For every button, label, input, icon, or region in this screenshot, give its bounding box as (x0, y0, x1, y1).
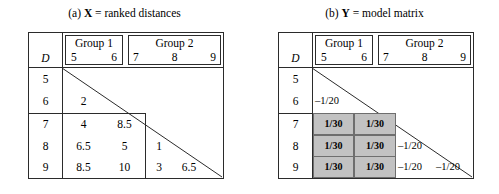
header-separator (62, 33, 63, 67)
group-box-2-a: Group 2 7 8 9 (128, 35, 221, 65)
matrix-cell: 6.5 (174, 156, 204, 178)
group-item: 7 (129, 50, 161, 65)
group-item: 7 (379, 50, 411, 65)
matrix-header-b: D Group 1 5 6 Group 2 7 8 9 (279, 33, 473, 68)
group-box-1-b: Group 1 5 6 (315, 35, 373, 65)
matrix-body-b: 5 6 7 8 9 –1/20 1/30 1/30 1/30 1/30 –1/2… (279, 68, 473, 178)
group-title: Group 1 (66, 36, 122, 51)
row-label: 9 (29, 156, 62, 178)
matrix-cell: 1 (146, 135, 172, 157)
group-item: 6 (94, 50, 122, 65)
group-items: 5 6 (316, 50, 372, 65)
group-box-1-a: Group 1 5 6 (65, 35, 123, 65)
group-item: 5 (66, 50, 94, 65)
group-items: 5 6 (66, 50, 122, 65)
caption-rest: = ranked distances (92, 7, 181, 19)
group-items: 7 8 9 (379, 50, 470, 65)
group-title: Group 1 (316, 36, 372, 51)
matrix-cell: –1/20 (436, 156, 480, 178)
row-label: 5 (29, 68, 62, 90)
caption-symbol: X (84, 7, 92, 19)
panel-ranked-distances: (a) X = ranked distances D Group 1 5 6 G… (0, 0, 249, 194)
row-label: 8 (29, 135, 62, 157)
matrix-cell-shaded: 1/30 (354, 135, 396, 157)
caption-rest: = model matrix (350, 7, 424, 19)
row-label: 7 (279, 113, 312, 135)
matrix-cell-shaded: 1/30 (354, 156, 396, 178)
group-title: Group 2 (129, 36, 220, 51)
matrix-body-a: 5 6 7 8 9 2 4 8.5 6.5 5 1 8.5 10 3 6.5 (29, 68, 223, 178)
matrix-cell: 6.5 (63, 135, 104, 157)
group-items: 7 8 9 (129, 50, 220, 65)
row-label: 7 (29, 113, 62, 135)
group-item: 8 (161, 50, 189, 65)
caption-prefix: (a) (68, 7, 84, 19)
caption-prefix: (b) (325, 7, 341, 19)
matrix-cell: 3 (146, 156, 172, 178)
row-header-label-b: D (279, 33, 312, 67)
panel-b-caption: (b) Y = model matrix (250, 6, 499, 20)
group-box-2-b: Group 2 7 8 9 (378, 35, 471, 65)
row-header-label-a: D (29, 33, 62, 67)
group-item: 6 (344, 50, 372, 65)
panel-model-matrix: (b) Y = model matrix D Group 1 5 6 Group… (250, 0, 499, 194)
row-label: 5 (279, 68, 312, 90)
matrix-header-a: D Group 1 5 6 Group 2 7 8 9 (29, 33, 223, 68)
matrix-cell: 8.5 (63, 156, 104, 178)
panel-a-caption: (a) X = ranked distances (0, 6, 249, 20)
matrix-cell-shaded: 1/30 (313, 156, 354, 178)
group-item: 8 (411, 50, 439, 65)
matrix-cell-shaded: 1/30 (313, 113, 354, 135)
row-label: 8 (279, 135, 312, 157)
row-label: 9 (279, 156, 312, 178)
group-item: 5 (316, 50, 344, 65)
group-item: 9 (188, 50, 220, 65)
matrix-cell: 8.5 (104, 113, 145, 135)
row-label: 6 (29, 90, 62, 112)
caption-symbol: Y (342, 7, 350, 19)
matrix-cell: 5 (104, 135, 145, 157)
header-separator (312, 33, 313, 67)
group-item: 9 (438, 50, 470, 65)
matrix-table-b: D Group 1 5 6 Group 2 7 8 9 (278, 32, 474, 179)
matrix-cell: –1/20 (398, 135, 442, 157)
matrix-cell: 2 (63, 90, 104, 112)
group-title: Group 2 (379, 36, 470, 51)
matrix-cell: –1/20 (315, 90, 359, 112)
row-label: 6 (279, 90, 312, 112)
matrix-cell-shaded: 1/30 (354, 113, 396, 135)
matrix-cell: 10 (104, 156, 145, 178)
matrix-table-a: D Group 1 5 6 Group 2 7 8 9 (28, 32, 224, 179)
matrix-cell-shaded: 1/30 (313, 135, 354, 157)
matrix-cell: 4 (63, 113, 104, 135)
